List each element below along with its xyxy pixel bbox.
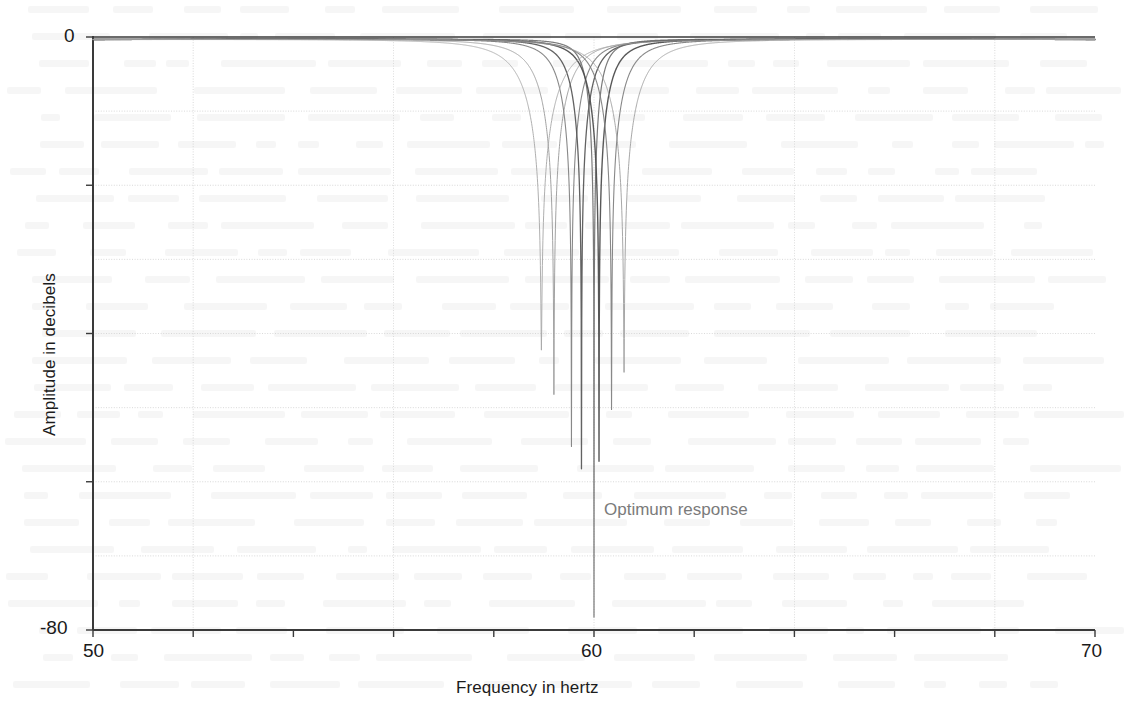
x-tick-label-70: 70 — [1081, 640, 1102, 662]
y-axis-label: Amplitude in decibels — [40, 273, 60, 436]
figure-root: Amplitude in decibels Frequency in hertz… — [0, 0, 1134, 726]
x-tick-label-50: 50 — [83, 640, 104, 662]
x-axis-label: Frequency in hertz — [456, 678, 599, 698]
x-tick-label-60: 60 — [581, 640, 602, 662]
optimum-response-annotation: Optimum response — [604, 500, 748, 520]
notch-response-chart — [0, 0, 1134, 726]
y-tick-label-minus80: -80 — [40, 617, 67, 639]
y-tick-label-0: 0 — [64, 25, 75, 47]
